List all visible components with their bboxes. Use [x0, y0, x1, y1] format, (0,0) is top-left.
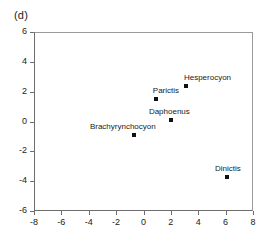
- data-point-label: Brachyrynchocyon: [90, 122, 156, 131]
- x-tick: [116, 211, 117, 215]
- data-point-marker: [132, 133, 136, 137]
- data-point-label: Parictis: [153, 86, 179, 95]
- data-point-label: Hesperocyon: [184, 73, 231, 82]
- y-tick-label: -6: [8, 205, 27, 215]
- data-point-marker: [169, 118, 173, 122]
- x-tick: [144, 211, 145, 215]
- x-tick: [226, 211, 227, 215]
- x-tick-label: -6: [51, 217, 71, 227]
- x-tick-label: 2: [161, 217, 181, 227]
- y-tick: [30, 92, 34, 93]
- y-tick: [30, 32, 34, 33]
- data-point-marker: [225, 175, 229, 179]
- data-point-label: Dinictis: [215, 164, 241, 173]
- y-tick-label: -4: [8, 175, 27, 185]
- figure-panel-d: (d) HesperocyonParictisDaphoenusBrachyry…: [0, 0, 271, 242]
- x-tick: [34, 211, 35, 215]
- x-tick-label: -2: [106, 217, 126, 227]
- x-tick-label: 0: [134, 217, 154, 227]
- y-tick-label: 4: [8, 56, 27, 66]
- x-tick: [61, 211, 62, 215]
- y-tick: [30, 62, 34, 63]
- y-tick-label: 2: [8, 86, 27, 96]
- y-tick: [30, 151, 34, 152]
- panel-label: (d): [14, 9, 28, 21]
- data-point-marker: [154, 97, 158, 101]
- x-tick: [89, 211, 90, 215]
- x-tick-label: 6: [216, 217, 236, 227]
- x-tick-label: 4: [188, 217, 208, 227]
- data-point-label: Daphoenus: [149, 107, 190, 116]
- y-tick: [30, 122, 34, 123]
- scatter-plot-area: HesperocyonParictisDaphoenusBrachyryncho…: [34, 32, 253, 211]
- x-tick: [171, 211, 172, 215]
- y-tick-label: -2: [8, 145, 27, 155]
- y-tick: [30, 211, 34, 212]
- x-tick-label: 8: [243, 217, 263, 227]
- y-tick: [30, 181, 34, 182]
- data-point-marker: [184, 84, 188, 88]
- x-tick: [198, 211, 199, 215]
- y-tick-label: 6: [8, 26, 27, 36]
- y-tick-label: 0: [8, 116, 27, 126]
- x-tick-label: -8: [24, 217, 44, 227]
- x-tick-label: -4: [79, 217, 99, 227]
- x-tick: [253, 211, 254, 215]
